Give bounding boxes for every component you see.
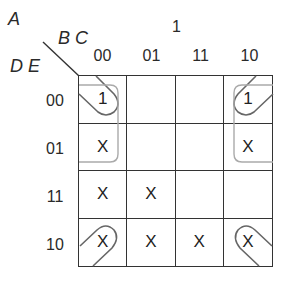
row-header-01: 01 [38,140,72,158]
variable-a-label: A [8,10,20,28]
kmap-cell: X [127,219,175,267]
kmap-cell: 1 [224,76,272,124]
column-header-11: 11 [176,47,225,65]
kmap-cell [224,171,272,219]
row-header-11: 11 [38,188,72,206]
kmap-cell [176,171,224,219]
row-header-10: 10 [38,236,72,254]
variable-bc-label: B C [58,29,88,47]
column-header-00: 00 [78,47,127,65]
kmap-cell [127,76,175,124]
column-header-10: 10 [225,47,274,65]
kmap-cell: X [176,219,224,267]
variable-de-label: D E [10,57,40,75]
kmap-cell: 1 [79,76,127,124]
karnaugh-map-grid: 1 1 X X X X X X X X [78,75,273,267]
column-header-01: 01 [127,47,176,65]
row-header-00: 00 [38,92,72,110]
kmap-cell: X [79,171,127,219]
kmap-cell: X [224,124,272,172]
kmap-cell [176,76,224,124]
variable-a-value: 1 [172,19,181,35]
kmap-cell: X [224,219,272,267]
kmap-cell: X [79,124,127,172]
kmap-cell [127,124,175,172]
kmap-cell [176,124,224,172]
kmap-cell: X [79,219,127,267]
kmap-cell: X [127,171,175,219]
